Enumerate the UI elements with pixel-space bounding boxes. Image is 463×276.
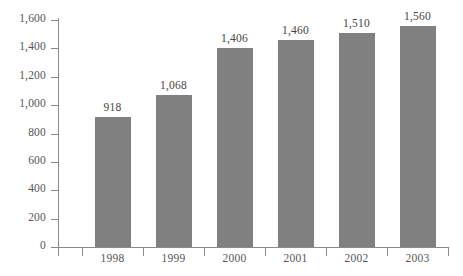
y-axis-tick-label: 400 [0, 182, 46, 194]
y-axis-tick [51, 162, 59, 163]
bar-chart: 02004006008001,0001,2001,4001,600 9181,0… [0, 0, 463, 276]
bar-value-label: 1,560 [387, 10, 448, 22]
y-axis-tick [51, 77, 59, 78]
bar [217, 48, 253, 247]
bar [95, 117, 131, 247]
y-axis-tick-label: 800 [0, 126, 46, 138]
x-axis-origin-tick [58, 247, 59, 256]
x-axis-tick [448, 247, 449, 256]
x-axis-category-label: 2003 [387, 252, 448, 264]
y-axis-tick [51, 48, 59, 49]
bar [339, 33, 375, 247]
x-axis-category-label: 2000 [204, 252, 265, 264]
y-axis-tick [51, 105, 59, 106]
y-axis-tick [51, 134, 59, 135]
y-axis-tick-label: 200 [0, 211, 46, 223]
x-axis-line [58, 247, 448, 248]
y-axis-tick-label: 1,000 [0, 97, 46, 109]
y-axis-tick [51, 219, 59, 220]
y-axis-tick [51, 20, 59, 21]
y-axis-tick-label: 0 [0, 239, 46, 251]
y-axis-tick-label: 1,200 [0, 69, 46, 81]
bar-value-label: 918 [82, 101, 143, 113]
y-axis-tick-label: 1,600 [0, 12, 46, 24]
x-axis-category-label: 1998 [82, 252, 143, 264]
y-axis-tick-label: 1,400 [0, 40, 46, 52]
bar [156, 95, 192, 247]
bar-value-label: 1,068 [143, 79, 204, 91]
bar-value-label: 1,460 [265, 24, 326, 36]
x-axis-category-label: 1999 [143, 252, 204, 264]
y-axis-tick-label: 600 [0, 154, 46, 166]
bar-value-label: 1,510 [326, 17, 387, 29]
bar-value-label: 1,406 [204, 32, 265, 44]
y-axis-tick [51, 190, 59, 191]
x-axis-category-label: 2002 [326, 252, 387, 264]
bar [278, 40, 314, 247]
x-axis-category-label: 2001 [265, 252, 326, 264]
bar [400, 26, 436, 247]
